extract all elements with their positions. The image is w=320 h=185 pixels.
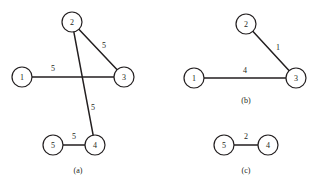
node-label-c4: 4 — [266, 141, 270, 150]
graph-edge-a2-a3 — [79, 29, 117, 69]
edge-weight-a1-a3: 5 — [51, 64, 55, 73]
graph-node-a3[interactable]: 3 — [114, 67, 134, 87]
edge-weight-a5-a4: 5 — [72, 132, 76, 141]
graph-edge-b2-b3 — [253, 31, 289, 70]
edges-layer — [32, 29, 289, 145]
graph-node-a4[interactable]: 4 — [85, 135, 105, 155]
graph-node-b1[interactable]: 1 — [184, 68, 204, 88]
edge-weight-c5-c4: 2 — [244, 132, 248, 141]
node-label-a1: 1 — [20, 73, 24, 82]
figure-root: 1234512354 5555412 (a)(b)(c) — [0, 0, 320, 185]
panel-caption-a: (a) — [74, 166, 83, 175]
graph-node-a1[interactable]: 1 — [12, 67, 32, 87]
graph-node-c4[interactable]: 4 — [258, 135, 278, 155]
panel-caption-c: (c) — [242, 166, 251, 175]
panel-caption-b: (b) — [241, 96, 251, 105]
node-label-a4: 4 — [93, 141, 97, 150]
graph-node-a2[interactable]: 2 — [62, 12, 82, 32]
node-label-a2: 2 — [70, 18, 74, 27]
node-label-a3: 3 — [122, 73, 126, 82]
edge-weight-a2-a4: 5 — [91, 103, 95, 112]
node-label-b3: 3 — [294, 74, 298, 83]
graph-edge-a2-a4 — [74, 32, 93, 135]
node-label-a5: 5 — [51, 141, 55, 150]
nodes-layer: 1234512354 — [12, 12, 306, 155]
edge-weight-b2-b3: 1 — [276, 43, 280, 52]
graph-diagram-canvas: 1234512354 5555412 (a)(b)(c) — [0, 0, 320, 185]
node-label-b1: 1 — [192, 74, 196, 83]
edge-weight-a2-a3: 5 — [102, 41, 106, 50]
graph-node-b3[interactable]: 3 — [286, 68, 306, 88]
graph-node-a5[interactable]: 5 — [43, 135, 63, 155]
graph-node-c5[interactable]: 5 — [214, 135, 234, 155]
node-label-b2: 2 — [244, 20, 248, 29]
graph-node-b2[interactable]: 2 — [236, 14, 256, 34]
node-label-c5: 5 — [222, 141, 226, 150]
edge-weight-b1-b3: 4 — [243, 66, 247, 75]
